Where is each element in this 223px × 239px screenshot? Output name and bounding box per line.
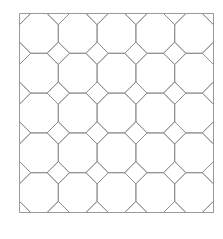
square-tile <box>125 82 147 104</box>
figure-frame <box>20 14 214 213</box>
square-tile <box>47 122 69 144</box>
square-tile <box>164 122 186 144</box>
square-tile <box>125 122 147 144</box>
square-tile <box>125 42 147 64</box>
square-tile <box>86 162 108 184</box>
square-tile <box>47 162 69 184</box>
square-tile <box>202 82 223 104</box>
square-tile <box>164 82 186 104</box>
square-tile <box>86 122 108 144</box>
square-tile <box>125 162 147 184</box>
square-tile <box>202 162 223 184</box>
tiling-svg <box>0 0 223 239</box>
tiling-lines-group <box>8 2 223 223</box>
square-tile <box>86 42 108 64</box>
square-tile <box>202 122 223 144</box>
square-tile <box>47 82 69 104</box>
square-tile <box>164 162 186 184</box>
square-tile <box>86 82 108 104</box>
figure-canvas <box>0 0 223 239</box>
square-tile <box>164 42 186 64</box>
square-tile <box>47 42 69 64</box>
square-tile <box>202 42 223 64</box>
